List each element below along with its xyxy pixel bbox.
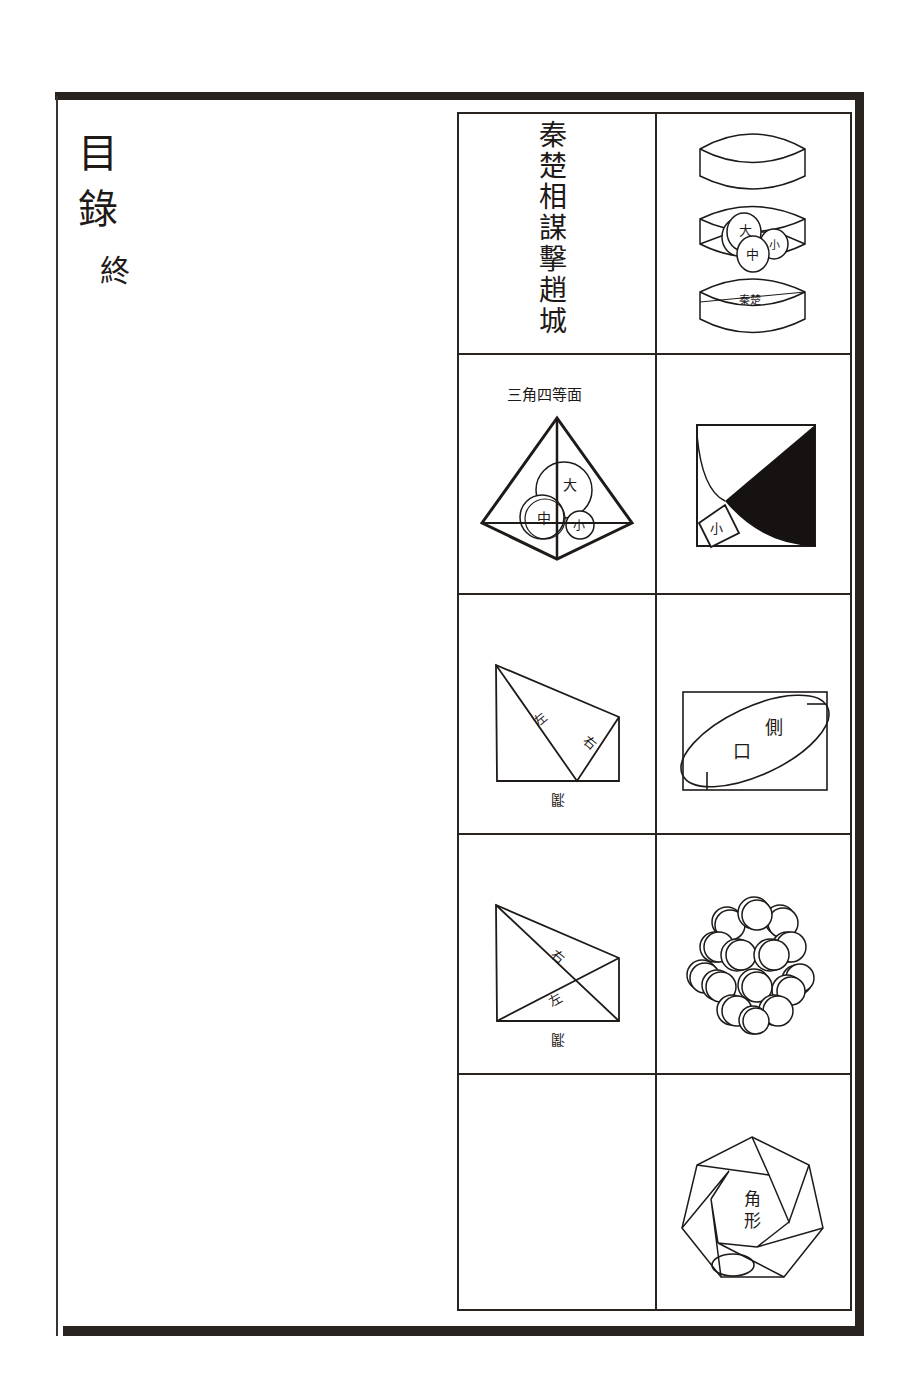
figure-cell: 側 口 [657,595,850,835]
label-mouth: 口 [733,741,751,762]
title-char: 相 [533,182,573,213]
page-title: 目 錄 [78,125,138,237]
label-left: 左 [531,709,551,729]
label-shape: 形 [744,1211,761,1231]
figure-cell: 三角四等面 大 中 小 [459,355,657,595]
label-angle: 角 [744,1189,761,1209]
label-medium: 中 [746,247,759,262]
frame-right-border [855,92,864,1336]
label-width: 濶 [551,1032,565,1048]
end-mark: 終 [100,246,130,290]
quadrilateral-figure: 左 右 濶 [459,595,655,835]
figure-cell: 角 形 [657,1075,850,1311]
rectangle-ellipse-figure: 側 口 [657,595,850,835]
label-side: 側 [765,717,783,738]
table-row: 秦 楚 相 謀 擊 趙 城 [459,114,850,354]
vertical-title: 秦 楚 相 謀 擊 趙 城 [533,120,573,337]
label-large: 大 [739,223,752,238]
frame-top-border [55,92,862,100]
crossed-quadrilateral-figure: 右 左 濶 [459,835,655,1075]
tetrahedron-figure: 三角四等面 大 中 小 [459,355,655,595]
label-width: 濶 [551,792,565,808]
frame-bottom-border [63,1326,864,1336]
stacked-boxes-figure: 大 中 小 秦楚 [657,114,850,354]
title-char: 楚 [533,151,573,182]
shaded-square-figure: 小 [657,355,850,595]
title-cell: 秦 楚 相 謀 擊 趙 城 [459,114,657,354]
label-small: 小 [710,521,723,536]
label-right: 右 [548,946,568,966]
label-medium: 中 [537,510,551,526]
table-row: 左 右 濶 側 口 [459,593,850,835]
title-char: 秦 [533,120,573,151]
figure-cell: 左 右 濶 [459,595,657,835]
label-large: 大 [563,477,577,493]
title-char: 城 [533,306,573,337]
figure-caption: 三角四等面 [507,386,582,404]
figure-cell: 右 左 濶 [459,835,657,1075]
title-char: 目 [78,125,138,181]
frame-left-border [56,96,58,1336]
figure-table: 秦 楚 相 謀 擊 趙 城 [457,112,852,1311]
title-char: 擊 [533,244,573,275]
title-char: 錄 [78,181,138,237]
empty-cell [459,1075,657,1311]
title-char: 謀 [533,213,573,244]
figure-cell [657,835,850,1075]
figure-cell: 小 [657,355,850,595]
table-row: 三角四等面 大 中 小 小 [459,353,850,595]
heptagon-figure: 角 形 [657,1075,850,1311]
svg-text:秦楚: 秦楚 [739,293,761,307]
table-row: 右 左 濶 [459,833,850,1075]
sphere-cluster-figure [657,835,850,1075]
label-small: 小 [573,519,585,533]
title-char: 趙 [533,275,573,306]
table-row: 角 形 [459,1073,850,1311]
figure-cell: 大 中 小 秦楚 [657,114,850,354]
label-small: 小 [769,239,780,252]
